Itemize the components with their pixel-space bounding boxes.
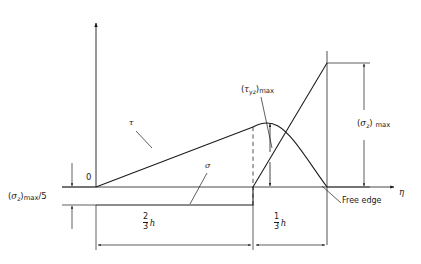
label-tau-curve: τ xyxy=(129,119,133,127)
tau-shear-line xyxy=(96,127,253,187)
leader-free-edge xyxy=(322,186,341,203)
leader-tau-curve xyxy=(136,131,152,148)
fraction-numerator: 1 xyxy=(274,213,279,221)
tau-yz-parabola xyxy=(253,123,327,187)
label-tau-yz-max: (τyz)max xyxy=(241,85,274,95)
label-origin: 0 xyxy=(86,173,91,182)
label-sigma-curve: σ xyxy=(205,162,210,170)
construction-lines xyxy=(253,51,327,245)
max-suffix: max xyxy=(24,194,39,202)
fraction-numerator: 2 xyxy=(143,213,148,221)
label-sigma-z-max-over-5: (σz)max/5 xyxy=(8,192,47,202)
fraction-denominator: 3 xyxy=(274,223,279,231)
divisor: /5 xyxy=(39,191,47,201)
sigma-block xyxy=(96,187,253,205)
sigma-z-rising-line xyxy=(253,63,327,187)
leader-tau-yz-max xyxy=(261,97,272,148)
label-free-edge: Free edge xyxy=(342,197,382,205)
label-sigma-z-max: (σz) max xyxy=(357,119,390,129)
dimension-unit: h xyxy=(150,219,155,228)
diagram-canvas xyxy=(0,0,421,264)
leader-sigma-curve xyxy=(190,173,207,204)
dimension-horizontal-spans xyxy=(96,205,325,250)
fraction-denominator: 3 xyxy=(143,223,148,231)
label-dimension-two-thirds-h: 2 3 h xyxy=(143,213,155,231)
stress-distribution-figure: (σz)max/5 (σz) max (τyz)max τ σ 0 η Free… xyxy=(0,0,421,264)
max-suffix: max xyxy=(259,87,274,95)
axis-group xyxy=(62,23,394,187)
curve-group xyxy=(96,63,327,205)
max-suffix: max xyxy=(375,121,390,129)
dimension-unit: h xyxy=(281,219,286,228)
paren-close: ) xyxy=(369,118,372,128)
leader-lines xyxy=(136,97,341,204)
label-dimension-one-third-h: 1 3 h xyxy=(274,213,286,231)
label-eta-axis: η xyxy=(399,188,404,197)
fraction-two-thirds: 2 3 xyxy=(143,213,148,231)
tau-subscript: yz xyxy=(249,88,256,95)
fraction-one-third: 1 3 xyxy=(274,213,279,231)
